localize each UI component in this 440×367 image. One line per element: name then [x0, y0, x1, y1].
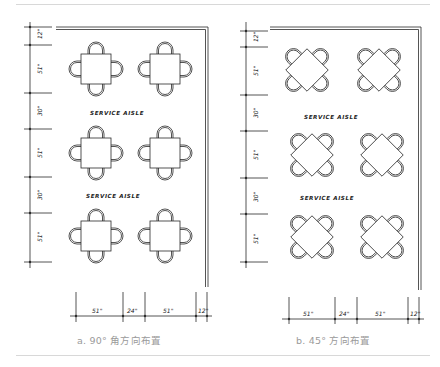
table-with-chairs [138, 126, 192, 180]
dim-text: 51" [303, 310, 314, 317]
table-with-chairs [274, 117, 350, 193]
panel-a-vertical-dimension [24, 22, 52, 268]
dim-text: 51" [92, 307, 103, 314]
dim-text: 12" [36, 28, 43, 39]
table-with-chairs [69, 209, 123, 263]
panel-b-aisle-label-1: SERVICE AISLE [304, 114, 358, 120]
table-with-chairs [274, 199, 350, 275]
table-with-chairs [341, 32, 417, 108]
dim-text: 51" [252, 149, 259, 160]
panel-b-tables [269, 32, 420, 275]
table-with-chairs [138, 42, 192, 96]
table-with-chairs [138, 209, 192, 263]
dim-text: 51" [375, 310, 386, 317]
dim-text: 30" [252, 191, 259, 202]
dim-text: 51" [36, 231, 43, 242]
table-with-chairs [344, 199, 420, 275]
panel-b-aisle-label-2: SERVICE AISLE [300, 195, 354, 201]
dim-text: 51" [252, 65, 259, 76]
bottom-rule [16, 355, 430, 356]
table-with-chairs [69, 42, 123, 96]
panel-a-caption: a. 90° 角方向布置 [77, 333, 161, 347]
table-with-chairs [69, 126, 123, 180]
dim-text: 30" [36, 189, 43, 200]
panel-b-caption: b. 45° 方向布置 [296, 333, 370, 347]
dim-text: 51" [163, 307, 174, 314]
dim-text: 24" [127, 307, 138, 314]
dim-text: 24" [339, 310, 350, 317]
panel-b-vertical-dimension [240, 22, 268, 268]
table-with-chairs [344, 117, 420, 193]
dim-text: 12" [252, 31, 259, 42]
dim-text: 51" [36, 63, 43, 74]
panel-a-tables [69, 42, 192, 263]
dim-text: 51" [36, 147, 43, 158]
dim-text: 30" [252, 107, 259, 118]
dim-text: 51" [252, 233, 259, 244]
panel-a-aisle-label-1: SERVICE AISLE [90, 110, 144, 116]
dim-text: 12" [410, 310, 421, 317]
table-with-chairs [269, 32, 345, 108]
dim-text: 12" [198, 307, 209, 314]
panel-a-aisle-label-2: SERVICE AISLE [86, 193, 140, 199]
panel-a-plan: SERVICE AISLE SERVICE AISLE 12" 51" 30" … [0, 0, 440, 367]
dim-text: 30" [36, 105, 43, 116]
